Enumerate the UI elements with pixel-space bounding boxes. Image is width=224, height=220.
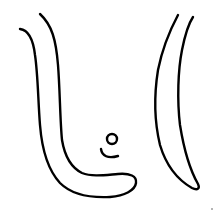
line-drawing: Line drawing: left curved U-shaped strok…	[0, 0, 224, 220]
drawing-svg	[0, 0, 224, 220]
speck-dot	[211, 208, 213, 210]
